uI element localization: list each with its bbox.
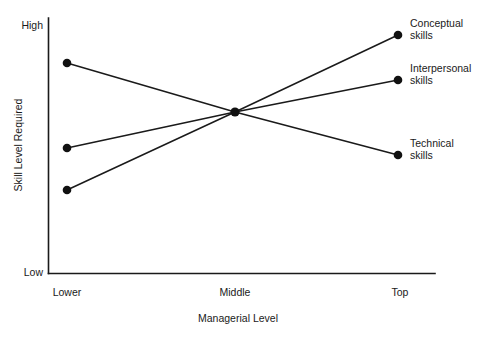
- technical-skills-label-line2: skills: [410, 149, 433, 161]
- x-axis-title: Managerial Level: [198, 312, 278, 324]
- conceptual-skills-label-line2: skills: [410, 29, 433, 41]
- interpersonal-skills-label-line2: skills: [410, 74, 433, 86]
- interpersonal-skills-point-lower: [63, 144, 72, 153]
- managerial-skills-line-chart: High Low Skill Level Required Conceptual…: [0, 0, 489, 345]
- middle-crossing-point: [230, 107, 239, 116]
- conceptual-skills-label-line1: Conceptual: [410, 17, 463, 29]
- y-axis-low-label: Low: [24, 266, 44, 278]
- conceptual-skills-point-lower: [63, 186, 72, 195]
- technical-skills-point-top: [394, 151, 403, 160]
- interpersonal-skills-point-top: [394, 76, 403, 85]
- conceptual-skills-point-top: [394, 31, 403, 40]
- interpersonal-skills-label-line1: Interpersonal: [410, 62, 471, 74]
- x-tick-label-middle: Middle: [220, 286, 251, 298]
- technical-skills-point-lower: [63, 59, 72, 68]
- chart-screenshot: High Low Skill Level Required Conceptual…: [0, 0, 489, 345]
- x-tick-label-lower: Lower: [53, 286, 82, 298]
- x-tick-label-top: Top: [392, 286, 409, 298]
- y-axis-high-label: High: [21, 19, 43, 31]
- y-axis-title: Skill Level Required: [12, 98, 24, 191]
- technical-skills-label-line1: Technical: [410, 137, 454, 149]
